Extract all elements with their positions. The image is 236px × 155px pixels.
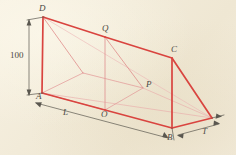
vertex-label-O: O: [101, 110, 108, 119]
vertex-label-C: C: [171, 45, 177, 54]
inner-edge-inner-to-P: [83, 73, 143, 88]
inner-edge-A-to-inner: [42, 73, 83, 93]
arrow-thickness-right: [213, 121, 220, 126]
diagonal-D-to-inner: [43, 17, 83, 73]
dimension-label-length: L: [63, 108, 68, 117]
edge-O-B: [105, 110, 172, 128]
vertex-label-A: A: [36, 92, 42, 101]
vertex-label-D: D: [39, 4, 46, 13]
diagonal-Q-to-P: [105, 37, 143, 88]
edge-D-Q: [43, 17, 105, 37]
dimension-arrowheads: [27, 19, 222, 139]
vertex-label-Q: Q: [102, 24, 109, 33]
vertex-label-B: B: [167, 133, 173, 142]
geometry-diagram: D Q C A P O B T 100 L: [0, 0, 236, 155]
vertex-label-P: P: [146, 80, 152, 89]
vertex-label-T: T: [202, 127, 207, 136]
edge-Q-C: [105, 37, 172, 58]
construction-lines: [42, 17, 212, 118]
arrow-length-left: [35, 102, 42, 107]
edge-D-A: [42, 17, 43, 93]
dimension-label-height: 100: [10, 51, 24, 60]
inner-edge-P-to-O: [105, 88, 143, 110]
ext-line-top-D: [27, 17, 44, 20]
prism-figure: [0, 0, 236, 155]
